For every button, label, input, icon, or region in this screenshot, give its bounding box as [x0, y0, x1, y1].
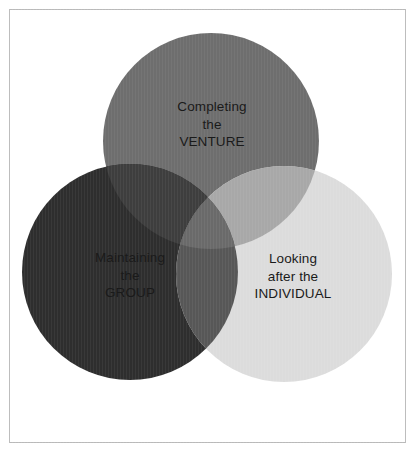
venn-circles-graphic	[0, 0, 416, 455]
venn-diagram-container: Completing the VENTURE Maintaining the G…	[0, 0, 416, 455]
paper-texture-overlay	[0, 0, 416, 455]
